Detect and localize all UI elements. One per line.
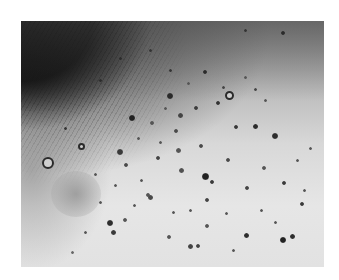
lesion-spot [99, 201, 102, 204]
lesion-spot [280, 237, 286, 243]
lesion-spot [226, 158, 230, 162]
lesion-spot [202, 173, 209, 180]
lesion-spot [216, 101, 220, 105]
lesion-spot [296, 159, 299, 162]
lesion-spot [253, 124, 258, 129]
lesion-spot [137, 137, 140, 140]
lesion-spot [129, 115, 135, 121]
lesion-spot [119, 57, 122, 60]
lesion-spot [164, 107, 167, 110]
lesion-spot [159, 141, 162, 144]
lesion-spot [245, 186, 249, 190]
lesion-spot [174, 129, 178, 133]
lesion-spot [210, 180, 214, 184]
lesion-spot [124, 163, 128, 167]
lesion-spot [199, 144, 203, 148]
skin-lesions-photo [21, 21, 324, 267]
lesion-spot [234, 125, 238, 129]
lesion-spot [123, 218, 127, 222]
lesion-spot [244, 233, 249, 238]
lesion-spot [111, 230, 116, 235]
lesion-spot [290, 234, 295, 239]
lesion-spot [281, 31, 285, 35]
lesion-spot [262, 166, 266, 170]
lesion-spot [148, 195, 153, 200]
lesion-spot [309, 147, 312, 150]
lesion-spot [244, 29, 247, 32]
lesion-spot [64, 127, 67, 130]
ring-lesion [78, 143, 85, 150]
lesion-spot [282, 181, 286, 185]
lesion-spot [205, 224, 209, 228]
lesion-spot [189, 209, 192, 212]
lesion-spot [176, 148, 181, 153]
lesion-spot [272, 133, 278, 139]
lesion-spot [178, 113, 183, 118]
lesion-spot [222, 86, 225, 89]
lesion-spot [107, 220, 113, 226]
areola [51, 171, 101, 217]
lesion-spot [194, 106, 198, 110]
lesion-spot [232, 249, 235, 252]
ring-lesion [42, 157, 54, 169]
lesion-spot [187, 82, 190, 85]
lesion-spot [133, 204, 136, 207]
lesion-spot [99, 79, 102, 82]
lesion-spot [140, 179, 143, 182]
lesion-spot [169, 69, 172, 72]
lesion-spot [117, 149, 123, 155]
lesion-spot [114, 184, 117, 187]
lesion-spot [196, 244, 200, 248]
lesion-spot [254, 88, 257, 91]
lesion-spot [167, 235, 171, 239]
lesion-spot [203, 70, 207, 74]
lesion-spot [94, 173, 97, 176]
lesion-spot [244, 76, 247, 79]
lesion-spot [225, 212, 228, 215]
lesion-spot [167, 93, 173, 99]
lesion-spot [71, 251, 74, 254]
lesion-spot [205, 198, 209, 202]
lesion-spot [188, 244, 193, 249]
lesion-spot [172, 211, 175, 214]
lesion-spot [84, 231, 87, 234]
lesion-spot [303, 189, 306, 192]
lesion-spot [264, 99, 267, 102]
lesion-spot [156, 156, 160, 160]
lesion-spot [260, 209, 263, 212]
lesion-spot [150, 121, 154, 125]
lesion-spot [274, 221, 277, 224]
lesion-spot [300, 202, 304, 206]
ring-lesion [225, 91, 234, 100]
lesion-spot [149, 49, 152, 52]
lesion-spot [179, 168, 184, 173]
